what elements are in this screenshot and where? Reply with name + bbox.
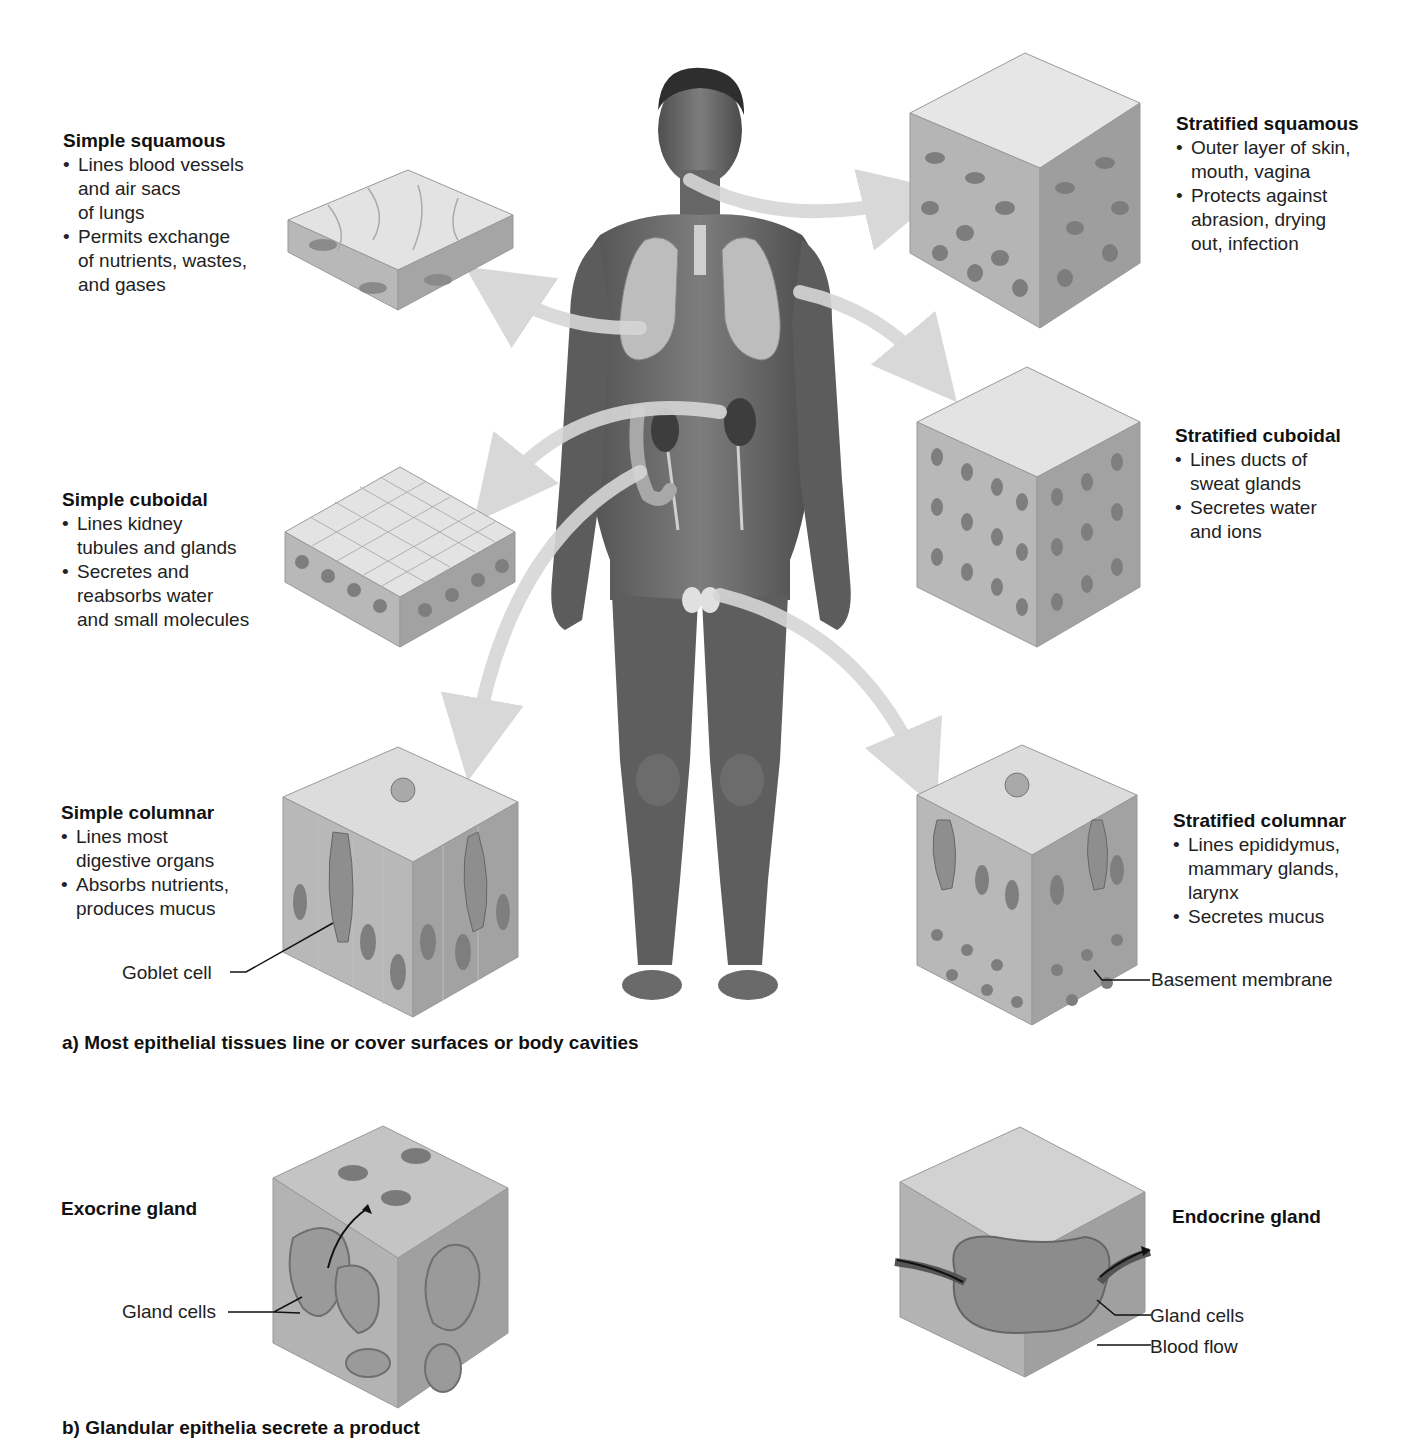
bullet-text: larynx	[1188, 881, 1407, 905]
part-b-caption: b) Glandular epithelia secrete a product	[62, 1417, 420, 1439]
bullet-text: and air sacs	[78, 177, 293, 201]
bullet: Lines ducts of sweat glands	[1175, 448, 1405, 496]
endocrine-leader-lines	[1095, 1295, 1155, 1355]
bullet-text: Lines epididymus,	[1188, 833, 1407, 857]
bullet-text: Permits exchange	[78, 225, 293, 249]
stratified-columnar-label: Stratified columnar Lines epididymus, ma…	[1173, 809, 1407, 929]
bullet-text: mammary glands,	[1188, 857, 1407, 881]
gland-cells-cluster	[953, 1236, 1109, 1333]
bullet: Outer layer of skin, mouth, vagina	[1176, 136, 1406, 184]
bullet-text: tubules and glands	[77, 536, 292, 560]
bullet-text: and gases	[78, 273, 293, 297]
goblet-cell-leader-line	[228, 920, 338, 980]
bullet-text: reabsorbs water	[77, 584, 292, 608]
endocrine-gland-title: Endocrine gland	[1172, 1205, 1321, 1229]
endocrine-blood-flow-callout: Blood flow	[1150, 1336, 1238, 1358]
bullet-text: mouth, vagina	[1191, 160, 1406, 184]
bullet-text: and ions	[1190, 520, 1405, 544]
goblet-cell-callout: Goblet cell	[122, 962, 212, 984]
bullet-text: abrasion, drying	[1191, 208, 1406, 232]
simple-columnar-block	[278, 742, 523, 1022]
simple-cuboidal-label: Simple cuboidal Lines kidney tubules and…	[62, 488, 292, 632]
bullet: Secretes mucus	[1173, 905, 1407, 929]
exocrine-gland-block	[268, 1118, 513, 1413]
stratified-columnar-title: Stratified columnar	[1173, 809, 1407, 833]
bullet-text: Secretes mucus	[1188, 905, 1407, 929]
arrow-to-simple-squamous	[500, 290, 640, 328]
bullet-text: Lines ducts of	[1190, 448, 1405, 472]
simple-columnar-title: Simple columnar	[61, 801, 291, 825]
bullet: Lines blood vessels and air sacs of lung…	[63, 153, 293, 225]
bullet-text: Lines blood vessels	[78, 153, 293, 177]
simple-columnar-label: Simple columnar Lines most digestive org…	[61, 801, 291, 921]
arrow-to-stratified-squamous	[690, 180, 905, 211]
stratified-cuboidal-title: Stratified cuboidal	[1175, 424, 1405, 448]
stratified-squamous-block	[905, 48, 1145, 333]
stratified-cuboidal-block	[912, 362, 1144, 652]
stratified-cuboidal-label: Stratified cuboidal Lines ducts of sweat…	[1175, 424, 1405, 544]
bullet-text: produces mucus	[76, 897, 291, 921]
bullet-text: sweat glands	[1190, 472, 1405, 496]
bullet: Protects against abrasion, drying out, i…	[1176, 184, 1406, 256]
basement-membrane-callout: Basement membrane	[1151, 969, 1333, 991]
endocrine-gland-cells-callout: Gland cells	[1150, 1305, 1244, 1327]
bullet: Secretes water and ions	[1175, 496, 1405, 544]
arrow-to-simple-cuboidal	[500, 408, 720, 490]
bullet: Secretes and reabsorbs water and small m…	[62, 560, 292, 632]
arrow-to-stratified-columnar	[720, 595, 920, 770]
bullet-text: Absorbs nutrients,	[76, 873, 291, 897]
stratified-squamous-label: Stratified squamous Outer layer of skin,…	[1176, 112, 1406, 256]
stratified-squamous-title: Stratified squamous	[1176, 112, 1406, 136]
bullet: Lines epididymus, mammary glands, larynx	[1173, 833, 1407, 905]
bullet-text: and small molecules	[77, 608, 292, 632]
bullet-text: Protects against	[1191, 184, 1406, 208]
bullet: Lines most digestive organs	[61, 825, 291, 873]
simple-squamous-title: Simple squamous	[63, 129, 293, 153]
part-a-caption: a) Most epithelial tissues line or cover…	[62, 1032, 639, 1054]
bullet: Permits exchange of nutrients, wastes, a…	[63, 225, 293, 297]
basement-membrane-leader-line	[1092, 968, 1152, 988]
bullet: Lines kidney tubules and glands	[62, 512, 292, 560]
bullet: Absorbs nutrients, produces mucus	[61, 873, 291, 921]
simple-squamous-label: Simple squamous Lines blood vessels and …	[63, 129, 293, 297]
bullet-text: Lines kidney	[77, 512, 292, 536]
exocrine-gland-cells-leader-lines	[226, 1285, 306, 1325]
bullet-text: digestive organs	[76, 849, 291, 873]
simple-squamous-block	[278, 170, 518, 315]
bullet-text: Secretes water	[1190, 496, 1405, 520]
bullet-text: of nutrients, wastes,	[78, 249, 293, 273]
bullet-text: Secretes and	[77, 560, 292, 584]
simple-cuboidal-title: Simple cuboidal	[62, 488, 292, 512]
bullet-text: out, infection	[1191, 232, 1406, 256]
exocrine-gland-title: Exocrine gland	[61, 1197, 197, 1221]
bullet-text: of lungs	[78, 201, 293, 225]
exocrine-gland-cells-callout: Gland cells	[122, 1301, 216, 1323]
bullet-text: Lines most	[76, 825, 291, 849]
simple-cuboidal-block	[280, 462, 520, 652]
bullet-text: Outer layer of skin,	[1191, 136, 1406, 160]
